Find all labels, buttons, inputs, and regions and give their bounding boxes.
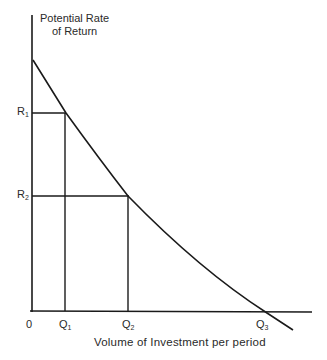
x-axis [30,311,312,312]
origin-label: 0 [26,318,32,331]
q2-label: Q2 [122,318,134,334]
q1-label: Q1 [59,318,71,334]
return-curve [33,60,293,330]
x-axis-title: Volume of Investment per period [94,336,266,349]
r2-label: R2 [17,188,29,204]
q3-label: Q3 [256,318,268,334]
investment-demand-diagram [0,0,327,360]
y-axis-title: Potential Rate of Return [40,12,109,38]
r1-label: R1 [17,105,29,121]
